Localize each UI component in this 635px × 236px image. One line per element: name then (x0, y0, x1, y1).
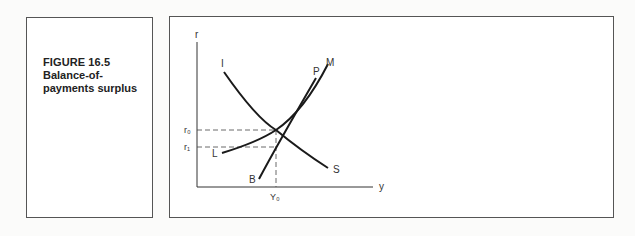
y-axis-label: r (195, 29, 199, 40)
bp-curve-end-label: P (313, 66, 320, 77)
r1-label: r₁ (184, 142, 190, 152)
lm-curve (222, 64, 328, 153)
is-lm-bp-diagram: r y r₀ r₁ Y₀ I S L M B P (0, 0, 635, 236)
is-curve-end-label: S (333, 164, 340, 175)
lm-curve-end-label: M (326, 57, 334, 68)
y0-label: Y₀ (270, 192, 280, 202)
bp-curve-start-label: B (249, 174, 256, 185)
x-axis-label: y (379, 181, 384, 192)
lm-curve-start-label: L (212, 148, 218, 159)
r0-label: r₀ (184, 125, 191, 135)
is-curve (224, 72, 328, 168)
bp-curve (259, 78, 316, 179)
is-curve-start-label: I (221, 58, 224, 69)
